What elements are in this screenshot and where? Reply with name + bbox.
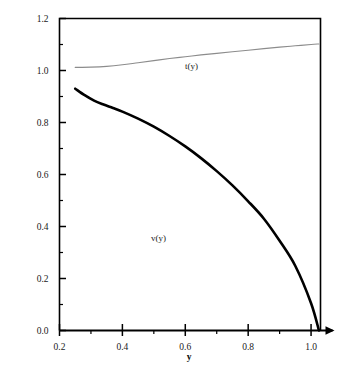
chart-figure: 0.00.20.40.60.81.01.2 0.20.40.60.81.0 t(… [0,0,337,383]
y-tick-label: 0.6 [37,170,49,180]
x-tick-label: 1.0 [305,342,317,352]
line-chart: 0.00.20.40.60.81.01.2 0.20.40.60.81.0 t(… [0,0,337,383]
y-tick-label: 0.2 [37,274,49,284]
curve-label-vy: v(y) [151,233,166,243]
chart-background [0,0,337,383]
curve-label-ty: t(y) [185,61,198,71]
x-axis-title: y [187,352,192,362]
x-tick-label: 0.2 [54,342,66,352]
y-tick-label: 0.8 [37,118,49,128]
x-tick-label: 0.6 [179,342,191,352]
y-tick-label: 0.0 [37,326,49,336]
y-tick-label: 1.2 [37,14,49,24]
x-tick-label: 0.8 [242,342,254,352]
y-tick-label: 0.4 [37,222,49,232]
y-tick-label: 1.0 [37,66,49,76]
x-tick-label: 0.4 [116,342,128,352]
